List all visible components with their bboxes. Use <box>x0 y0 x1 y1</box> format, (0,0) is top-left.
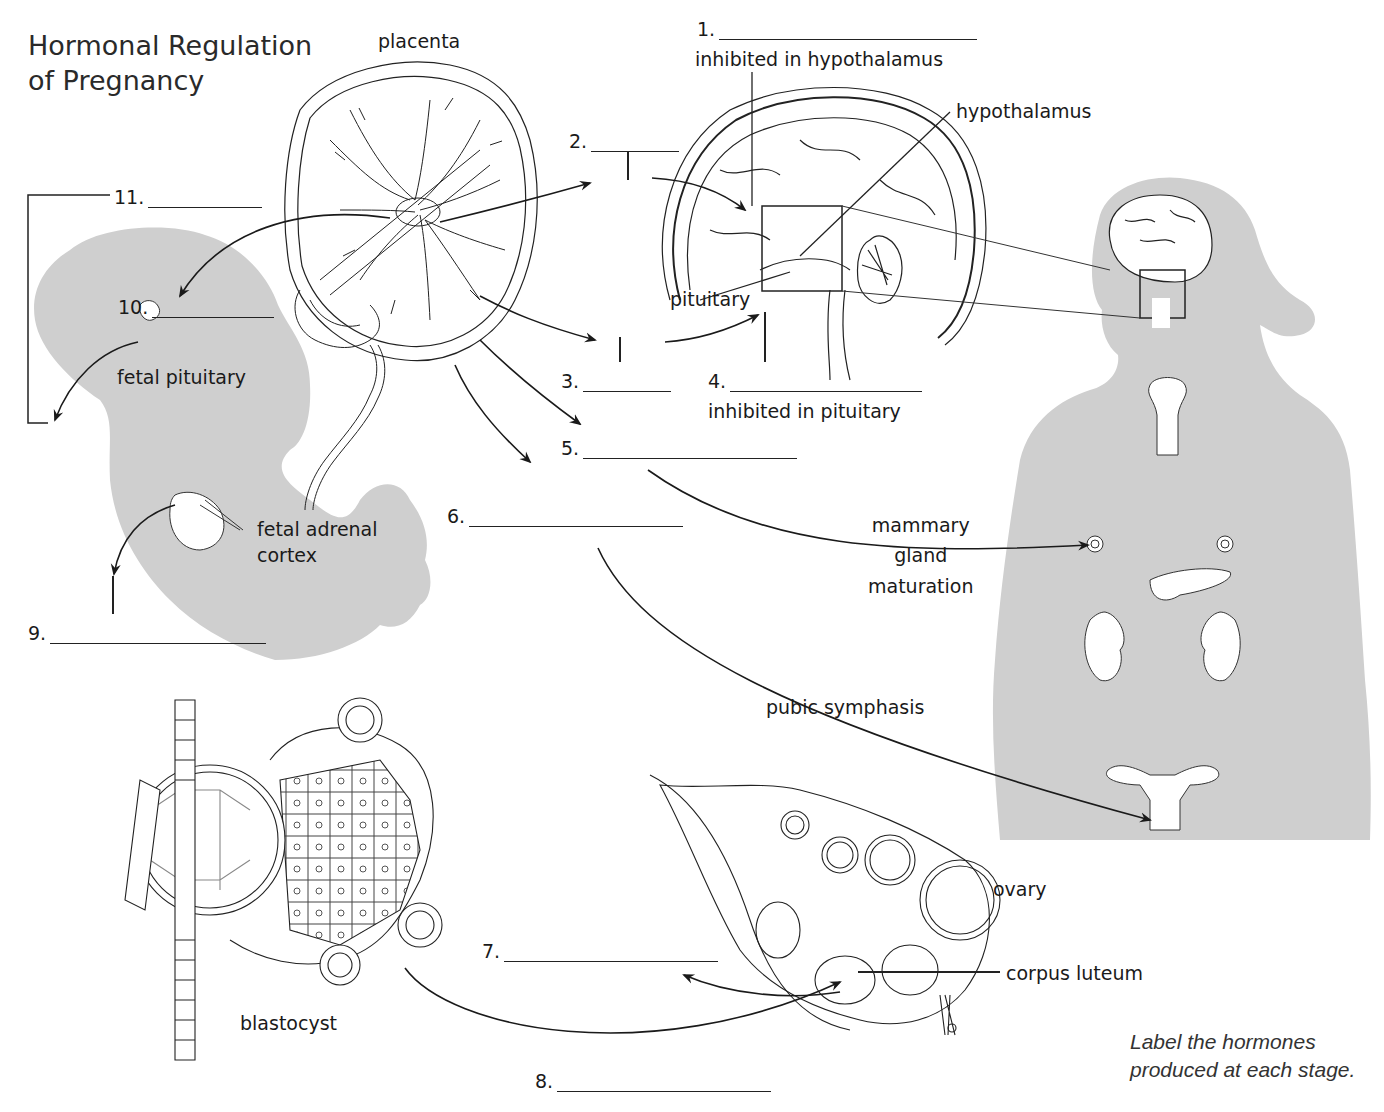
blank-number: 1. <box>697 18 715 40</box>
blank-2[interactable]: 2. <box>569 130 679 152</box>
ovary-illustration <box>650 775 1000 1035</box>
label-hypothalamus: hypothalamus <box>956 102 1091 121</box>
blank-number: 9. <box>28 622 46 644</box>
blank-11[interactable]: 11. <box>114 186 262 208</box>
mammary-line-2: gland <box>868 540 974 570</box>
answer-line[interactable] <box>583 377 671 392</box>
label-pubic-symphasis: pubic symphasis <box>766 698 924 717</box>
fetal-adrenal-line-2: cortex <box>257 543 378 569</box>
blank-10[interactable]: 10. <box>118 296 274 318</box>
answer-line[interactable] <box>152 303 274 318</box>
blank-number: 5. <box>561 437 579 459</box>
answer-line[interactable] <box>719 25 977 40</box>
placenta-illustration <box>285 62 537 510</box>
label-blastocyst: blastocyst <box>240 1014 337 1033</box>
mammary-line-3: maturation <box>868 571 974 601</box>
annotation-inhibited-pituitary: inhibited in pituitary <box>708 402 901 421</box>
annotation-inhibited-hypothalamus: inhibited in hypothalamus <box>695 50 943 69</box>
label-ovary: ovary <box>993 880 1047 899</box>
blank-number: 4. <box>708 370 726 392</box>
answer-line[interactable] <box>730 377 922 392</box>
blank-1[interactable]: 1. <box>697 18 977 40</box>
answer-line[interactable] <box>591 137 679 152</box>
mammary-line-1: mammary <box>868 510 974 540</box>
label-fetal-adrenal-cortex: fetal adrenal cortex <box>257 517 378 568</box>
blank-6[interactable]: 6. <box>447 505 683 527</box>
label-corpus-luteum: corpus luteum <box>1006 964 1143 983</box>
label-fetal-pituitary: fetal pituitary <box>117 368 246 387</box>
blank-number: 7. <box>482 940 500 962</box>
blank-9[interactable]: 9. <box>28 622 266 644</box>
blastocyst-illustration <box>125 698 442 1060</box>
fetus-silhouette <box>34 227 430 660</box>
diagram-title: Hormonal Regulation of Pregnancy <box>28 28 312 98</box>
answer-line[interactable] <box>504 947 718 962</box>
fetal-adrenal-line-1: fetal adrenal <box>257 517 378 543</box>
blank-number: 2. <box>569 130 587 152</box>
brain-sagittal-illustration <box>663 88 986 381</box>
blank-number: 10. <box>118 296 148 318</box>
answer-line[interactable] <box>148 193 262 208</box>
instruction-text: Label the hormones produced at each stag… <box>1130 1028 1355 1085</box>
blank-4[interactable]: 4. <box>708 370 922 392</box>
label-placenta: placenta <box>378 32 460 51</box>
answer-line[interactable] <box>469 512 683 527</box>
blank-number: 6. <box>447 505 465 527</box>
answer-line[interactable] <box>50 629 266 644</box>
blank-5[interactable]: 5. <box>561 437 797 459</box>
blank-number: 3. <box>561 370 579 392</box>
blank-7[interactable]: 7. <box>482 940 718 962</box>
title-line-2: of Pregnancy <box>28 63 312 98</box>
label-pituitary: pituitary <box>670 290 750 309</box>
instruction-line-1: Label the hormones <box>1130 1028 1355 1056</box>
answer-line[interactable] <box>557 1077 771 1092</box>
answer-line[interactable] <box>583 444 797 459</box>
blank-number: 8. <box>535 1070 553 1092</box>
blank-8[interactable]: 8. <box>535 1070 771 1092</box>
blank-3[interactable]: 3. <box>561 370 671 392</box>
label-mammary-gland-maturation: mammary gland maturation <box>868 510 974 601</box>
title-line-1: Hormonal Regulation <box>28 28 312 63</box>
instruction-line-2: produced at each stage. <box>1130 1056 1355 1084</box>
blank-number: 11. <box>114 186 144 208</box>
